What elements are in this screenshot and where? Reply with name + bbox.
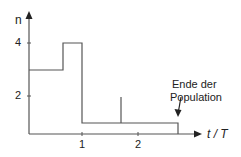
annotation-line2: Population	[170, 92, 222, 103]
x-axis-label: t / T	[207, 128, 228, 140]
annotation-line1: Ende der	[172, 79, 217, 90]
annotation-arrow-icon	[175, 109, 182, 117]
population-step-line	[29, 43, 178, 134]
y-tick-label-4: 4	[15, 37, 21, 48]
x-axis-arrow-icon	[194, 131, 202, 138]
x-tick-label-1: 1	[79, 139, 85, 150]
y-tick-label-2: 2	[15, 90, 21, 101]
y-axis-arrow-icon	[26, 11, 33, 19]
x-tick-label-2: 2	[135, 139, 141, 150]
y-axis-label: n	[15, 14, 22, 26]
